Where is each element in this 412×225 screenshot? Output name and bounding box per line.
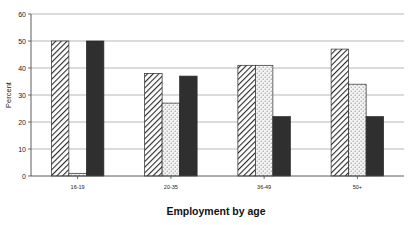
bar xyxy=(331,49,349,176)
bar xyxy=(86,41,104,176)
y-tick-label: 50 xyxy=(18,38,26,45)
x-category-label: 20-35 xyxy=(164,184,178,190)
bar xyxy=(180,76,198,176)
bar xyxy=(238,65,256,176)
bar-chart: 0102030405060 16-1920-3536-4950+ Employm… xyxy=(0,0,412,225)
bar xyxy=(51,41,69,176)
x-category-label: 50+ xyxy=(353,184,362,190)
y-tick-label: 30 xyxy=(18,92,26,99)
bar xyxy=(349,84,367,176)
y-tick-label: 20 xyxy=(18,119,26,126)
bar xyxy=(273,117,291,176)
y-tick-label: 60 xyxy=(18,11,26,18)
y-axis-title: Percent xyxy=(4,81,13,108)
y-tick-label: 40 xyxy=(18,65,26,72)
x-category-label: 36-49 xyxy=(257,184,271,190)
x-category-label: 16-19 xyxy=(71,184,85,190)
x-axis-title: Employment by age xyxy=(166,205,265,217)
bar xyxy=(255,65,273,176)
bar xyxy=(366,117,384,176)
bar xyxy=(162,103,180,176)
y-tick-label: 0 xyxy=(22,173,26,180)
chart-container: 0102030405060 16-1920-3536-4950+ Employm… xyxy=(0,0,412,225)
y-tick-label: 10 xyxy=(18,146,26,153)
bar xyxy=(145,73,163,176)
